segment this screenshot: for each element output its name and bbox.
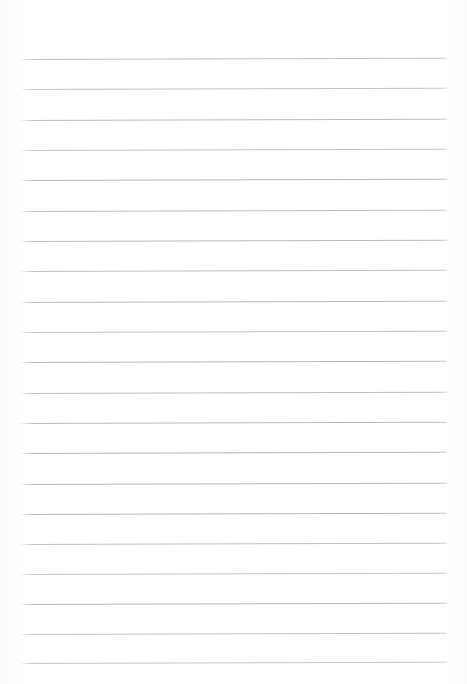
ruled-line [20,603,447,605]
ruled-lines-layer [0,0,467,684]
document-page [0,0,467,684]
ruled-line [20,452,447,454]
ruled-line [20,58,447,60]
ruled-line [20,210,447,212]
ruled-line [20,119,447,121]
ruled-line [20,88,447,90]
ruled-line [20,513,447,515]
ruled-line [20,270,447,272]
ruled-line [20,422,447,424]
ruled-line [20,179,447,181]
ruled-line [20,633,447,635]
ruled-line [20,662,447,664]
ruled-line [20,301,447,303]
ruled-line [20,149,447,151]
ruled-line [20,361,447,363]
ruled-line [20,331,447,333]
ruled-line [20,240,447,242]
ruled-line [20,483,447,485]
ruled-line [20,392,447,394]
ruled-line [20,543,447,545]
ruled-line [20,573,447,575]
